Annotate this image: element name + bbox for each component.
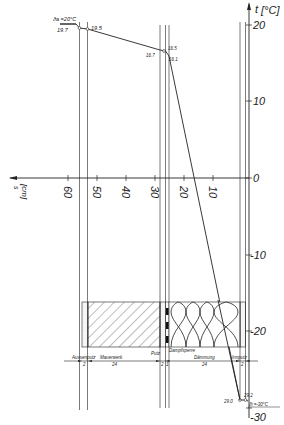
temperature-axis-symbol: t bbox=[255, 3, 259, 15]
layer-aussenputz bbox=[82, 302, 88, 347]
layer-putz bbox=[160, 302, 166, 347]
point-16-5 bbox=[163, 50, 166, 53]
wall-cross-section bbox=[82, 300, 246, 400]
wall-temperature-diagram: t [°C] 20 10 0 -10 -20 -30 s [cm] 60 50 … bbox=[0, 0, 284, 425]
thickness-innputz: 2 bbox=[240, 362, 244, 367]
temperature-axis-unit: [°C] bbox=[260, 4, 280, 16]
label-aussenputz: Aussenputz bbox=[71, 355, 96, 360]
tick-s-60: 60 bbox=[62, 186, 74, 199]
thickness-dampfsperre: 1 bbox=[166, 362, 169, 367]
point-19-7 bbox=[78, 27, 81, 30]
arrow-left-icon bbox=[9, 176, 17, 180]
label-daemmung: Dämmung bbox=[194, 355, 215, 360]
layer-daemmung bbox=[169, 302, 240, 347]
layer-innputz bbox=[240, 302, 246, 347]
layer-dampfsperre bbox=[166, 302, 170, 347]
outside-temperature-label: ϑa =20°C bbox=[53, 16, 76, 22]
tick-s-40: 40 bbox=[120, 186, 132, 199]
label-putz: Putz bbox=[151, 351, 161, 356]
thickness-mauerwerk: 24 bbox=[111, 362, 118, 367]
tick-minus10: -10 bbox=[250, 249, 267, 261]
temperature-profile: ϑa =20°C 19.7 19.5 16.7 16.5 16.1 29.0 2… bbox=[53, 16, 280, 407]
point-29-2 bbox=[244, 399, 247, 402]
value-19-5: 19.5 bbox=[91, 25, 103, 31]
tick-s-20: 20 bbox=[178, 185, 190, 199]
tick-minus20: -20 bbox=[250, 325, 267, 337]
value-29-2: 29.2 bbox=[243, 393, 253, 398]
thickness-axis-unit: [cm] bbox=[20, 183, 29, 200]
tick-20: 20 bbox=[252, 19, 266, 31]
value-19-7: 19.7 bbox=[57, 27, 69, 33]
tick-0: 0 bbox=[253, 172, 260, 184]
thickness-putz: 2 bbox=[160, 362, 164, 367]
tick-10: 10 bbox=[253, 95, 266, 107]
inside-temperature-label: ϑi =-30°C bbox=[249, 402, 269, 407]
label-mauerwerk: Mauerwerk bbox=[100, 355, 123, 360]
point-19-5 bbox=[86, 28, 89, 31]
layer-boundary-lines bbox=[80, 22, 246, 410]
value-29-0: 29.0 bbox=[223, 399, 233, 404]
thickness-aussenputz: 2 bbox=[82, 362, 86, 367]
tick-minus30: -30 bbox=[250, 411, 267, 423]
value-16-7: 16.7 bbox=[146, 53, 155, 58]
label-dampfsperre: Dampfsperre bbox=[169, 348, 196, 353]
tick-s-10: 10 bbox=[207, 186, 219, 199]
thickness-daemmung: 24 bbox=[201, 362, 208, 367]
value-16-5: 16.5 bbox=[168, 46, 177, 51]
tick-s-50: 50 bbox=[91, 186, 103, 199]
thickness-axis: s [cm] 60 50 40 30 20 10 bbox=[9, 175, 249, 200]
value-16-1: 16.1 bbox=[169, 57, 178, 62]
label-innputz: Innputz bbox=[232, 355, 248, 360]
layer-mauerwerk bbox=[88, 302, 160, 347]
arrow-up-icon bbox=[247, 2, 251, 10]
thickness-axis-symbol: s bbox=[13, 186, 20, 190]
tick-s-30: 30 bbox=[149, 186, 161, 199]
temperature-axis: t [°C] 20 10 0 -10 -20 -30 bbox=[246, 2, 280, 423]
